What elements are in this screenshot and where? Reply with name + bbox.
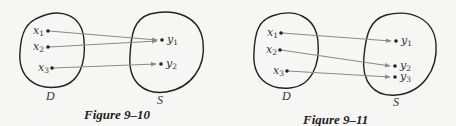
point-y3 <box>393 75 397 79</box>
label-y2: y2 <box>165 57 177 71</box>
point-y1 <box>394 39 398 43</box>
domain-set-d-outline <box>20 13 85 87</box>
arrow-x3-to-y3 <box>288 71 390 77</box>
label-x1: x1 <box>267 26 278 40</box>
label-x3: x3 <box>38 61 49 75</box>
arrow-x2-to-y2 <box>281 50 390 66</box>
label-y1: y1 <box>166 33 178 47</box>
figure-9-11: x1 x2 x3 y1 y2 y3 D S Figure 9–11 <box>254 13 436 126</box>
set-label-d: D <box>45 89 55 103</box>
figure-9-10: x1 x2 x3 y1 y2 D S Figure 9–10 <box>20 12 204 122</box>
label-x1: x1 <box>33 24 44 38</box>
point-x2 <box>46 45 50 49</box>
point-x3 <box>285 69 289 73</box>
arrow-x2-to-y1 <box>49 41 157 47</box>
point-y1 <box>160 38 164 42</box>
set-label-d: D <box>281 89 291 103</box>
label-x3: x3 <box>273 64 284 78</box>
point-x3 <box>50 66 54 70</box>
set-label-s: S <box>157 93 163 107</box>
set-label-s: S <box>393 95 399 109</box>
point-y2 <box>393 64 397 68</box>
point-x1 <box>279 31 283 35</box>
codomain-set-s-outline <box>130 12 204 92</box>
arrow-x3-to-y2 <box>53 64 156 68</box>
point-x1 <box>46 29 50 33</box>
label-x2: x2 <box>33 40 44 54</box>
point-x2 <box>278 48 282 52</box>
point-y2 <box>159 62 163 66</box>
arrow-x1-to-y1 <box>282 33 391 41</box>
function-mapping-diagrams: x1 x2 x3 y1 y2 D S Figure 9–10 x1 x2 x3 … <box>0 0 456 126</box>
label-x2: x2 <box>266 43 277 57</box>
label-y1: y1 <box>400 34 412 48</box>
figure-caption: Figure 9–10 <box>83 107 151 122</box>
arrow-x1-to-y1 <box>49 31 157 40</box>
figure-caption: Figure 9–11 <box>302 112 368 126</box>
